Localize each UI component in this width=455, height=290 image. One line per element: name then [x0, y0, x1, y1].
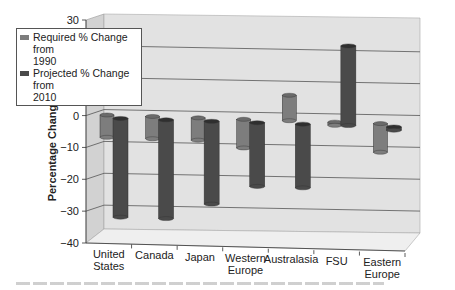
figure-caption-cropped — [16, 282, 384, 285]
y-tick-label: −10 — [60, 141, 79, 153]
bar-required — [237, 117, 251, 150]
legend-item-required: Required % Change from 1990 — [20, 31, 138, 67]
bar-cap — [373, 122, 387, 126]
y-tick-label: 30 — [67, 14, 79, 26]
y-tick-label: 0 — [73, 110, 79, 122]
legend-swatch-projected — [20, 71, 29, 76]
y-tick-label: −30 — [60, 205, 79, 217]
x-category-label: Europe — [364, 268, 399, 280]
bar-base — [204, 202, 219, 206]
bar-required — [373, 122, 387, 155]
bar-body — [204, 121, 219, 204]
bar-base — [159, 217, 174, 221]
bar-projected — [204, 119, 219, 206]
x-category-label: United — [93, 248, 125, 260]
bar-base — [100, 135, 114, 139]
legend-swatch-required — [20, 35, 29, 40]
bar-body — [282, 95, 296, 120]
bar-required — [328, 120, 342, 127]
bar-base — [341, 124, 356, 128]
bar-cap — [204, 119, 219, 123]
bar-body — [159, 120, 174, 219]
bar-body — [250, 123, 265, 187]
legend-label-line: Required % Change from — [33, 31, 128, 55]
bar-base — [146, 137, 160, 141]
y-tick-label: −40 — [60, 237, 79, 249]
x-category-label: Europe — [228, 264, 263, 276]
bar-base — [373, 150, 387, 154]
bar-projected — [341, 44, 356, 128]
legend: Required % Change from 1990 Projected % … — [16, 28, 142, 106]
bar-body — [146, 116, 160, 138]
bar-cap — [282, 93, 296, 97]
bar-projected — [113, 116, 128, 219]
x-category-label: Eastern — [363, 256, 401, 268]
legend-label-line: 2010 — [33, 91, 56, 103]
bar-body — [373, 124, 387, 153]
bar-base — [237, 146, 251, 150]
bar-body — [341, 46, 356, 126]
bar-cap — [113, 116, 128, 120]
y-axis-title: Percentage Change — [46, 99, 58, 202]
bar-projected — [295, 122, 310, 190]
bar-body — [191, 118, 205, 140]
x-category-label: FSU — [326, 255, 348, 267]
bar-base — [328, 123, 342, 127]
bar-base — [295, 186, 310, 190]
bar-body — [113, 118, 128, 217]
bar-base — [250, 184, 265, 188]
bar-body — [237, 119, 251, 148]
legend-label-required: Required % Change from 1990 — [33, 31, 138, 67]
bar-required — [282, 93, 296, 122]
bar-base — [113, 215, 128, 219]
floor — [86, 229, 420, 251]
bar-cap — [237, 117, 251, 121]
legend-item-projected: Projected % Change from 2010 — [20, 67, 138, 103]
bar-required — [100, 113, 114, 139]
bar-projected — [386, 125, 401, 132]
bar-cap — [341, 44, 356, 48]
bar-base — [386, 128, 401, 132]
legend-label-line: 1990 — [33, 55, 56, 67]
x-category-label: Australasia — [264, 253, 319, 265]
bar-required — [191, 116, 205, 142]
legend-label-line: Projected % Change from — [33, 67, 129, 91]
x-category-label: Canada — [135, 249, 174, 261]
bar-cap — [250, 121, 265, 125]
bar-required — [146, 114, 160, 140]
legend-label-projected: Projected % Change from 2010 — [33, 67, 138, 103]
bar-cap — [295, 122, 310, 126]
bar-cap — [100, 113, 114, 117]
bar-base — [282, 119, 296, 123]
x-category-label: Japan — [185, 251, 215, 263]
bar-cap — [146, 114, 160, 118]
y-tick-label: −20 — [60, 173, 79, 185]
bar-projected — [159, 118, 174, 221]
bar-body — [100, 115, 114, 137]
bar-projected — [250, 121, 265, 189]
bar-cap — [159, 118, 174, 122]
bar-base — [191, 138, 205, 142]
x-category-label: Western — [225, 252, 266, 264]
x-category-label: States — [93, 260, 125, 272]
bar-body — [295, 124, 310, 188]
bar-cap — [191, 116, 205, 120]
